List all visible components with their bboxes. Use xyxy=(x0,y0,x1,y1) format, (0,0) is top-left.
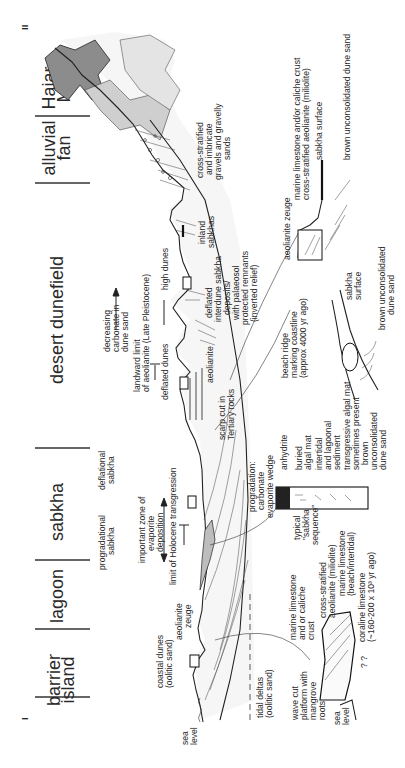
label-tidal-deltas: tidal deltas (oolitic sand) xyxy=(255,669,274,718)
svg-text:(oolitic sand): (oolitic sand) xyxy=(264,669,274,718)
inset-aeolianite-zeuge: aeolianite zeuge marine limestone and/or… xyxy=(282,34,352,260)
svg-text:of aeolianite (Late Pleistocen: of aeolianite (Late Pleistocene) xyxy=(141,274,151,392)
svg-text:surface: surface xyxy=(353,272,363,300)
label-high-dunes: high dunes xyxy=(160,248,170,290)
svg-text:deposition: deposition xyxy=(155,513,165,552)
svg-text:crust: crust xyxy=(306,621,316,640)
inset-beach-ridge: beach ridge marking coastline (approx 40… xyxy=(280,246,396,400)
zone-label-alluvial-fan: alluvial fan xyxy=(39,120,74,175)
label-progradational-sabkha: progradational sabkha xyxy=(97,515,116,570)
svg-text:(~160-200 x 10³ yr ago): (~160-200 x 10³ yr ago) xyxy=(366,552,376,642)
section-marker-end: II xyxy=(19,25,30,30)
zone-label-lagoon: lagoon xyxy=(47,569,67,623)
zone-label-desert-dunefield: desert dunefield xyxy=(47,256,67,384)
svg-text:dune sand: dune sand xyxy=(120,312,130,352)
svg-text:aeolianite zeuge: aeolianite zeuge xyxy=(282,197,292,260)
label-limit-holocene: limit of Holocene transgression xyxy=(168,467,178,585)
svg-text:cross-stratified aeolianite (m: cross-stratified aeolianite (miliolite) xyxy=(301,68,311,200)
svg-text:level: level xyxy=(189,727,199,745)
label-deflational-sabkha: deflational sabkha xyxy=(97,451,116,490)
svg-text:zeuge: zeuge xyxy=(183,604,193,628)
svg-text:aeolianite (miliolite): aeolianite (miliolite) xyxy=(327,544,337,618)
svg-text:(beach/intertidal): (beach/intertidal) xyxy=(346,532,356,596)
label-scarp: scarp cut in Tertiary rocks xyxy=(217,389,236,440)
svg-text:dune sand: dune sand xyxy=(386,275,396,315)
svg-text:sabkha: sabkha xyxy=(106,527,116,555)
svg-text:roots: roots xyxy=(317,701,327,720)
svg-text:dune sand: dune sand xyxy=(378,430,388,470)
svg-text:brown unconsolidated dune sand: brown unconsolidated dune sand xyxy=(342,34,352,160)
svg-text:sediment: sediment xyxy=(332,435,342,470)
svg-text:(approx 4000 yr ago): (approx 4000 yr ago) xyxy=(298,298,308,378)
zone-label-barrier-island: barrier island xyxy=(44,654,78,706)
label-coastal-dunes: coastal dunes (oolitic sand) xyxy=(155,635,174,688)
svg-text:sabkhas: sabkhas xyxy=(206,216,216,248)
label-decreasing-carbonate: decreasing carbonate in dune sand xyxy=(102,304,130,352)
svg-text:sabkha: sabkha xyxy=(106,456,116,484)
svg-text:sabkha surface: sabkha surface xyxy=(314,101,324,160)
label-deflated-dunes: deflated dunes xyxy=(160,344,170,400)
inset-sabkha-sequence: typical "sabkha sequence" anhydrite buri… xyxy=(276,381,388,545)
label-aeolianite: aeolianite xyxy=(205,346,215,383)
diagram-canvas: I II barrier island lagoon sabkha desert… xyxy=(0,0,405,768)
svg-text:island: island xyxy=(58,656,78,703)
svg-text:anhydrite: anhydrite xyxy=(279,434,289,470)
svg-text:fan: fan xyxy=(54,135,74,160)
svg-text:(inverted relief): (inverted relief) xyxy=(249,265,259,322)
inset-coastal-detail: wave cut platform with mangrove roots se… xyxy=(288,530,376,725)
label-sea-level: sea level xyxy=(180,727,199,745)
zone-label-sabkha: sabkha xyxy=(47,482,67,541)
svg-text:? ?: ? ? xyxy=(359,656,369,668)
svg-text:(oolitic sand): (oolitic sand) xyxy=(164,639,174,688)
svg-text:Tertiary rocks: Tertiary rocks xyxy=(226,389,236,440)
label-prograding-wedge: progradation: carbonate evaporite wedge xyxy=(247,455,275,518)
label-landward-limit: landward limit of aeolianite (Late Pleis… xyxy=(132,274,151,392)
svg-text:sands: sands xyxy=(222,137,232,160)
svg-text:algal mat: algal mat xyxy=(303,435,313,470)
geologic-cross-section-figure: I II barrier island lagoon sabkha desert… xyxy=(0,0,405,768)
svg-text:sequence": sequence" xyxy=(310,505,320,545)
label-alluvial-gravels: cross-stratified and imbricate gravels a… xyxy=(195,103,232,180)
svg-text:level: level xyxy=(341,707,351,725)
label-aeolianite-zeuge: aeolianite zeuge xyxy=(174,603,193,640)
svg-text:evaporite wedge: evaporite wedge xyxy=(265,455,275,518)
section-marker-start: I xyxy=(19,717,30,720)
